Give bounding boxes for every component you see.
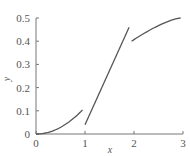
y-tick-label: 0	[25, 128, 31, 140]
axes	[36, 18, 183, 134]
line-segment-1	[36, 110, 83, 134]
y-tick-label: 0.3	[16, 58, 30, 70]
series	[36, 18, 181, 134]
x-tick-label: 1	[82, 137, 88, 149]
line-segment-3	[132, 18, 181, 41]
y-tick-label: 0.1	[16, 105, 30, 117]
x-axis-label: x	[107, 144, 113, 155]
y-tick-label: 0.2	[16, 82, 30, 94]
line-segment-2	[85, 27, 129, 124]
x-tick-label: 2	[131, 137, 137, 149]
x-tick-label: 3	[180, 137, 186, 149]
chart: 012300.10.20.30.40.5 x y	[0, 0, 190, 156]
y-tick-label: 0.5	[16, 12, 30, 24]
x-tick-label: 0	[33, 137, 39, 149]
ticks: 012300.10.20.30.40.5	[16, 12, 186, 149]
y-tick-label: 0.4	[16, 35, 30, 47]
y-axis-label: y	[1, 76, 12, 82]
